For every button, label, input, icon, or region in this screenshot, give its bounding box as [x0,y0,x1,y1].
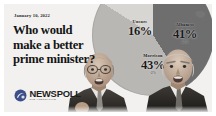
pie-label-albanese-value: 41% [162,28,208,41]
headline-line-1: Who would [13,23,125,38]
pie-label-albanese-delta: +5% [162,41,208,44]
newspoll-infographic: Unsure 16% Albanese 41% +5% Morrison 43%… [4,4,212,112]
newspoll-logo: NEWSPOLL THE AUSTRALIAN [14,89,81,102]
anthony-albanese-photo [146,46,212,112]
pie-label-albanese: Albanese 41% +5% [162,23,208,45]
newspoll-mark-icon [14,89,27,102]
page-title: Who would make a better prime minister? [13,23,125,67]
newspoll-name: NEWSPOLL [30,89,81,98]
newspoll-wordmark: NEWSPOLL THE AUSTRALIAN [30,89,81,102]
pie-label-unsure: Unsure 16% [120,20,160,38]
headline-line-3: prime minister? [13,52,125,67]
publication-date: January 10, 2022 [14,13,50,18]
australia-map-icon [193,9,207,21]
newspoll-tagline: THE AUSTRALIAN [30,99,81,102]
headline-line-2: make a better [13,38,125,53]
pie-label-unsure-value: 16% [120,25,160,38]
